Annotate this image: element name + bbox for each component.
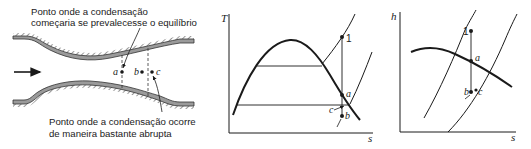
nozzle-point-b	[140, 70, 144, 74]
hs-isobar-low	[448, 14, 517, 132]
caption-top-line2: começaria se prevalecesse o equilíbrio	[31, 17, 197, 28]
hs-label-1: 1	[463, 26, 469, 37]
ts-isobar-low	[350, 52, 372, 104]
hs-y-axis-label: h	[391, 10, 397, 22]
lower-nozzle-wall	[13, 81, 194, 106]
nozzle-label-a: a	[113, 66, 118, 77]
nozzle-label-b: b	[134, 66, 139, 77]
hs-label-c: c	[478, 86, 483, 97]
ts-x-axis-label: s	[368, 132, 372, 144]
ts-label-a: a	[346, 88, 351, 99]
ts-label-1: 1	[346, 33, 352, 44]
ts-point-1	[340, 35, 344, 39]
ts-point-b	[340, 114, 344, 118]
lower-wall-hatching	[13, 85, 194, 109]
ts-label-c: c	[329, 104, 334, 115]
ts-label-b: b	[345, 110, 350, 121]
ts-arrow-b	[337, 119, 341, 127]
ts-point-a	[340, 93, 344, 97]
hs-label-b: b	[464, 86, 469, 97]
nozzle-label-c: c	[156, 66, 161, 77]
ts-diagram: T s 1 a b c	[221, 12, 373, 144]
ts-saturation-dome	[233, 40, 360, 120]
hs-saturation-line	[411, 48, 512, 87]
caption-bottom-line1: Ponto onde a condensação ocorre	[49, 116, 196, 127]
nozzle-panel: Ponto onde a condensação começaria se pr…	[13, 6, 197, 139]
caption-bottom-line2: de maneira bastante abrupta	[49, 128, 172, 139]
hs-x-axis-label: s	[511, 131, 515, 143]
figure: Ponto onde a condensação começaria se pr…	[0, 0, 531, 149]
hs-point-b	[469, 90, 473, 94]
hs-point-a	[469, 59, 473, 63]
hs-point-1	[469, 29, 473, 33]
nozzle-point-a	[120, 70, 124, 74]
caption-top-line1: Ponto onde a condensação	[31, 6, 148, 17]
ts-arrow-c	[334, 106, 344, 110]
ts-y-axis-label: T	[221, 12, 228, 24]
hs-label-a: a	[475, 52, 480, 63]
hs-diagram: h s 1 a b c	[391, 10, 517, 143]
nozzle-point-c	[150, 70, 154, 74]
